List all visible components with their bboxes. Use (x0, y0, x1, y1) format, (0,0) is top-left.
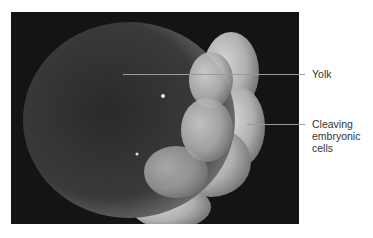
cleaving-leader-line (247, 124, 305, 125)
debris-speck (136, 153, 139, 156)
yolk-leader-line (123, 74, 305, 75)
embryonic-cell (144, 146, 208, 198)
yolk-label: Yolk (312, 68, 331, 80)
label-line: embryonic (312, 130, 360, 142)
micrograph-photo (11, 12, 299, 224)
cleaving-cells-label: Cleaving embryonic cells (312, 118, 360, 154)
label-line: Cleaving (312, 118, 360, 130)
debris-speck (161, 94, 165, 98)
embryo-illustration (11, 12, 299, 224)
label-line: cells (312, 142, 360, 154)
